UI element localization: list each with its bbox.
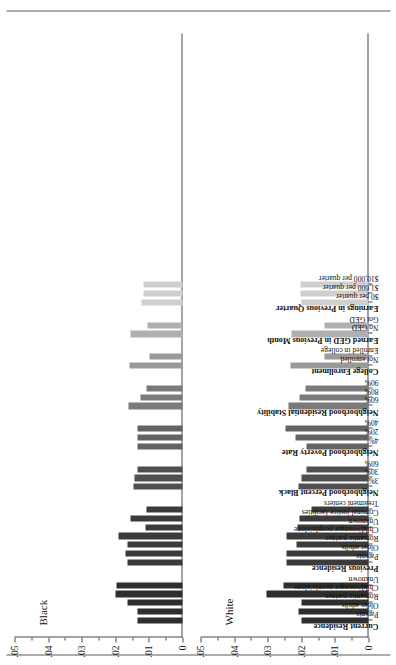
- bar: [305, 385, 368, 391]
- axis-tick: [148, 637, 149, 642]
- axis-tick-label: .05: [9, 645, 19, 665]
- bar: [147, 322, 182, 328]
- category-tick: [368, 333, 372, 334]
- axis-tick-minor: [217, 637, 218, 640]
- category-label: Romantic partner: [325, 533, 378, 541]
- bar: [143, 290, 182, 296]
- axis-tick-label: 0: [363, 645, 373, 665]
- category-label: Treatment centers: [324, 498, 378, 506]
- axis-tick-minor: [165, 637, 166, 640]
- axis-tick: [14, 637, 15, 642]
- axis-tick-minor: [31, 637, 32, 640]
- bar: [127, 599, 182, 605]
- bar: [115, 590, 182, 596]
- category-tick: [368, 485, 372, 486]
- category-label: 20%: [364, 426, 378, 434]
- category-label: 40%: [364, 417, 378, 425]
- axis-tick-label: .03: [76, 645, 86, 665]
- bar: [137, 608, 182, 614]
- bar: [143, 281, 182, 287]
- category-label: Criminal justice facilities: [301, 507, 378, 515]
- bar-series-black: [14, 33, 182, 637]
- bar: [146, 385, 182, 391]
- bar: [134, 474, 182, 480]
- axis-tick-label: .01: [143, 645, 153, 665]
- axis-tick: [301, 637, 302, 642]
- group-heading: Earnings in Previous Quarter: [275, 303, 378, 311]
- category-label: Child/younger people/alone: [293, 583, 378, 591]
- figure-canvas: Black 0.01.02.03.04.05 White 0.01.02.03.…: [0, 0, 396, 665]
- category-labels: ParentsOlder adultsRomantic partnerChild…: [372, 0, 396, 665]
- axis-tick-minor: [132, 637, 133, 640]
- axis-tick: [368, 637, 369, 642]
- category-tick: [368, 445, 372, 446]
- bar: [299, 394, 368, 400]
- axis-tick-label: 0: [177, 645, 187, 665]
- axis-tick-label: .03: [262, 645, 272, 665]
- axis-tick-minor: [351, 637, 352, 640]
- axis-tick-minor: [250, 637, 251, 640]
- figure-root: Black 0.01.02.03.04.05 White 0.01.02.03.…: [0, 0, 396, 665]
- group-heading: Previous Residence: [311, 563, 378, 571]
- axis-tick-minor: [98, 637, 99, 640]
- bar: [125, 550, 182, 556]
- axis-tick: [334, 637, 335, 642]
- category-label: Older adults: [341, 542, 378, 550]
- category-label: No GED: [351, 323, 378, 331]
- axis-tick-minor: [318, 637, 319, 640]
- category-label: 3%: [368, 475, 378, 483]
- bar: [129, 362, 182, 368]
- category-label: Got GED: [349, 314, 378, 322]
- group-heading: Current Residence: [313, 621, 378, 629]
- category-label: $10,000 per quarter: [318, 273, 378, 281]
- bar: [116, 582, 182, 588]
- group-heading: College Enrollment: [311, 366, 378, 374]
- bar: [285, 425, 368, 431]
- category-label: $0 per quarter: [335, 291, 378, 299]
- category-label: 4%: [368, 435, 378, 443]
- category-tick: [368, 301, 372, 302]
- group-heading: Neighborhood Percent Black: [278, 487, 378, 495]
- category-label: 30%: [364, 467, 378, 475]
- bar: [118, 532, 182, 538]
- bar: [128, 402, 182, 408]
- bar: [145, 524, 182, 530]
- axis-tick: [115, 637, 116, 642]
- axis-tick-label: .02: [296, 645, 306, 665]
- axis-tick: [81, 637, 82, 642]
- axis-tick: [267, 637, 268, 642]
- category-label: Enrolled in college: [320, 345, 378, 353]
- bar: [306, 466, 368, 472]
- bar: [137, 466, 182, 472]
- bar: [295, 434, 368, 440]
- category-label: Unknown: [348, 574, 378, 582]
- category-label: $1,000 per quarter: [322, 282, 378, 290]
- category-tick: [368, 561, 372, 562]
- axis-tick-minor: [64, 637, 65, 640]
- group-heading: Neighborhood Poverty Rate: [281, 447, 378, 455]
- bar: [301, 474, 368, 480]
- category-label: Romantic partner: [325, 591, 378, 599]
- bar: [137, 617, 182, 623]
- axis-tick-label: .01: [329, 645, 339, 665]
- category-label: Not enrolled: [340, 354, 378, 362]
- category-label: Older adults: [341, 600, 378, 608]
- axis-tick: [200, 637, 201, 642]
- category-tick: [368, 619, 372, 620]
- panel-black: Black 0.01.02.03.04.05: [14, 33, 182, 637]
- bar: [127, 559, 182, 565]
- axis-tick: [48, 637, 49, 642]
- category-label: 80%: [364, 386, 378, 394]
- category-label: Parents: [356, 609, 378, 617]
- category-tick: [368, 364, 372, 365]
- bar: [141, 299, 182, 305]
- category-tick: [368, 405, 372, 406]
- category-label: 90%: [364, 377, 378, 385]
- bar: [127, 541, 182, 547]
- category-label: 60%: [364, 458, 378, 466]
- category-label: Child/younger people/alone: [293, 525, 378, 533]
- group-heading: Earned GED in Previous Month: [267, 335, 378, 343]
- axis-tick-label: .04: [229, 645, 239, 665]
- group-heading: Neighborhood Residential Stability: [257, 407, 378, 415]
- axis-tick: [234, 637, 235, 642]
